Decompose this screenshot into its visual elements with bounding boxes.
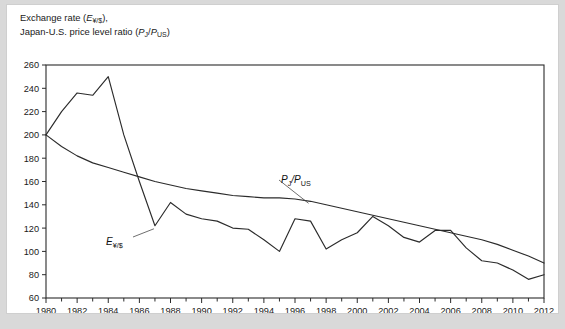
x-tick-label: 2000 [347, 306, 367, 313]
y-tick-label: 100 [24, 247, 39, 257]
x-tick-label: 1988 [160, 306, 180, 313]
y-tick-label: 60 [29, 293, 39, 303]
x-tick-label: 1998 [316, 306, 336, 313]
exchange-rate-series-label: E¥/$ [106, 236, 123, 250]
x-tick-label: 2008 [472, 306, 492, 313]
x-tick-label: 1984 [98, 306, 118, 313]
y-axis-ticks: 6080100120140160180200220240260 [24, 60, 46, 303]
x-tick-label: 2010 [503, 306, 523, 313]
chart-plot-area: 6080100120140160180200220240260 19801982… [7, 5, 558, 313]
y-tick-label: 240 [24, 84, 39, 94]
x-tick-label: 1990 [191, 306, 211, 313]
x-tick-label: 1982 [67, 306, 87, 313]
y-tick-label: 80 [29, 270, 39, 280]
x-tick-label: 2002 [378, 306, 398, 313]
y-tick-label: 140 [24, 200, 39, 210]
x-axis-ticks: 1980198219841986198819901992199419961998… [36, 298, 554, 313]
y-tick-label: 260 [24, 60, 39, 70]
y-tick-label: 220 [24, 107, 39, 117]
y-tick-label: 120 [24, 224, 39, 234]
y-tick-label: 200 [24, 130, 39, 140]
x-tick-label: 2012 [534, 306, 554, 313]
x-tick-label: 2004 [409, 306, 429, 313]
x-tick-label: 1980 [36, 306, 56, 313]
figure-panel: Exchange rate (E¥/$), Japan-U.S. price l… [7, 5, 558, 313]
exchange-rate-line-chart: 6080100120140160180200220240260 19801982… [7, 5, 558, 313]
y-tick-label: 180 [24, 154, 39, 164]
y-tick-label: 160 [24, 177, 39, 187]
x-tick-label: 1986 [129, 306, 149, 313]
exchange-rate-leader-line [133, 229, 154, 237]
x-tick-label: 2006 [440, 306, 460, 313]
x-tick-label: 1992 [223, 306, 243, 313]
x-tick-label: 1994 [254, 306, 274, 313]
x-tick-label: 1996 [285, 306, 305, 313]
